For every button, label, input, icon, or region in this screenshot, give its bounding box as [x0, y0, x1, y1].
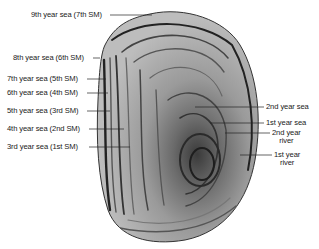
label-3rd-year-sea: 3rd year sea (1st SM): [7, 143, 78, 151]
label-1st-year-river-line2: river: [274, 159, 300, 167]
label-7th-year-sea: 7th year sea (5th SM): [7, 75, 78, 83]
label-2nd-year-sea: 2nd year sea: [266, 103, 309, 111]
label-2nd-year-river: 2nd year river: [272, 129, 301, 145]
label-6th-year-sea: 6th year sea (4th SM): [7, 89, 78, 97]
label-8th-year-sea: 8th year sea (6th SM): [13, 54, 84, 62]
label-1st-year-river: 1st year river: [274, 151, 300, 167]
label-1st-year-sea: 1st year sea: [266, 119, 306, 127]
label-4th-year-sea: 4th year sea (2nd SM): [7, 125, 80, 133]
label-5th-year-sea: 5th year sea (3rd SM): [7, 107, 78, 115]
label-2nd-year-river-line2: river: [272, 137, 301, 145]
label-9th-year-sea: 9th year sea (7th SM): [31, 11, 102, 19]
fish-scale-diagram: 9th year sea (7th SM) 8th year sea (6th …: [0, 0, 319, 249]
